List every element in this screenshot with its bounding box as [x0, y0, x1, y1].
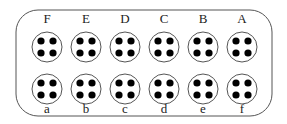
pin-dot — [205, 49, 212, 56]
socket-label-bottom: d — [161, 101, 168, 116]
pin-dot — [49, 91, 56, 98]
connector-diagram: FEDCBA abcdef — [0, 0, 287, 124]
socket-label-top: A — [237, 11, 247, 26]
pin-dot — [154, 91, 161, 98]
pin-dot — [115, 79, 122, 86]
socket-bottom-c — [110, 74, 140, 104]
pin-dot — [127, 37, 134, 44]
connector-outline — [16, 10, 272, 116]
pin-dot — [76, 79, 83, 86]
socket-bottom-a — [32, 74, 62, 104]
pin-dot — [244, 91, 251, 98]
pin-dot — [37, 49, 44, 56]
socket-ring — [149, 74, 179, 104]
pin-dot — [205, 91, 212, 98]
socket-label-bottom: c — [122, 101, 128, 116]
socket-label-top: F — [43, 11, 50, 26]
socket-label-top: B — [199, 11, 208, 26]
pin-dot — [205, 37, 212, 44]
socket-label-top: E — [82, 11, 90, 26]
pin-dot — [127, 79, 134, 86]
pin-dot — [88, 91, 95, 98]
pin-dot — [88, 49, 95, 56]
pin-dot — [244, 37, 251, 44]
pin-dot — [76, 37, 83, 44]
pin-dot — [193, 79, 200, 86]
pin-dot — [232, 37, 239, 44]
socket-ring — [188, 74, 218, 104]
socket-top-B — [188, 32, 218, 62]
socket-ring — [110, 32, 140, 62]
socket-ring — [71, 74, 101, 104]
pin-dot — [244, 49, 251, 56]
socket-top-D — [110, 32, 140, 62]
socket-ring — [188, 32, 218, 62]
socket-label-top: C — [160, 11, 169, 26]
pin-dot — [49, 49, 56, 56]
socket-label-bottom: f — [240, 101, 245, 116]
socket-ring — [32, 32, 62, 62]
socket-top-F — [32, 32, 62, 62]
pin-dot — [154, 37, 161, 44]
socket-ring — [149, 32, 179, 62]
socket-bottom-b — [71, 74, 101, 104]
pin-dot — [193, 91, 200, 98]
pin-dot — [88, 79, 95, 86]
socket-ring — [71, 32, 101, 62]
pin-dot — [37, 37, 44, 44]
pin-dot — [37, 79, 44, 86]
socket-bottom-d — [149, 74, 179, 104]
pin-dot — [232, 91, 239, 98]
pin-dot — [166, 91, 173, 98]
pin-dot — [127, 49, 134, 56]
socket-top-A — [227, 32, 257, 62]
pin-dot — [166, 37, 173, 44]
socket-bottom-e — [188, 74, 218, 104]
pin-dot — [166, 49, 173, 56]
socket-ring — [32, 74, 62, 104]
pin-dot — [193, 37, 200, 44]
pin-dot — [49, 79, 56, 86]
socket-label-bottom: b — [83, 101, 90, 116]
socket-bottom-f — [227, 74, 257, 104]
socket-ring — [110, 74, 140, 104]
pin-dot — [49, 37, 56, 44]
pin-dot — [154, 79, 161, 86]
pin-dot — [76, 91, 83, 98]
pin-dot — [115, 37, 122, 44]
pin-dot — [115, 91, 122, 98]
pin-dot — [232, 49, 239, 56]
socket-top-C — [149, 32, 179, 62]
socket-label-top: D — [120, 11, 129, 26]
pin-dot — [154, 49, 161, 56]
pin-dot — [37, 91, 44, 98]
pin-dot — [232, 79, 239, 86]
socket-ring — [227, 74, 257, 104]
pin-dot — [127, 91, 134, 98]
pin-dot — [76, 49, 83, 56]
pin-dot — [115, 49, 122, 56]
pin-dot — [88, 37, 95, 44]
pin-dot — [244, 79, 251, 86]
pin-dot — [166, 79, 173, 86]
socket-label-bottom: e — [200, 101, 206, 116]
pin-dot — [193, 49, 200, 56]
socket-ring — [227, 32, 257, 62]
pin-dot — [205, 79, 212, 86]
socket-top-E — [71, 32, 101, 62]
socket-label-bottom: a — [44, 101, 50, 116]
